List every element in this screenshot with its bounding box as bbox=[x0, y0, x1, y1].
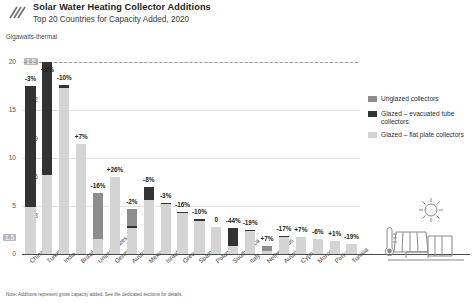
bar-morocco[interactable] bbox=[313, 239, 323, 254]
legend-label-evacuated-tube: Glazed – evacuated tube collectors bbox=[381, 110, 472, 125]
bar-segment-flat bbox=[211, 227, 221, 254]
y-axis-tick-primary: 5 bbox=[2, 202, 16, 209]
bar-portugal[interactable] bbox=[330, 241, 340, 254]
bar-segment-unglazed bbox=[93, 193, 103, 239]
bar-change-label: -19% bbox=[236, 219, 264, 226]
bar-segment-flat bbox=[127, 228, 137, 254]
legend-swatch-unglazed bbox=[368, 96, 377, 102]
sun-icon bbox=[419, 198, 443, 222]
bar-segment-evac bbox=[228, 228, 238, 246]
bar-china[interactable] bbox=[25, 86, 35, 254]
solar-collector-icon bbox=[388, 232, 464, 260]
bar-segment-flat bbox=[161, 204, 171, 254]
bar-segment-unglazed bbox=[262, 246, 272, 251]
bar-segment-flat bbox=[144, 200, 154, 254]
y-axis-tick-primary: 15 bbox=[2, 106, 16, 113]
bar-segment-flat bbox=[177, 213, 187, 254]
bar-segment-flat bbox=[330, 241, 340, 254]
bar-segment-flat bbox=[194, 221, 204, 254]
thermometer-icon bbox=[385, 228, 397, 256]
y-axis-secondary-origin-marker: 1.5 bbox=[3, 234, 16, 241]
legend-label-flat-plate: Glazed – flat plate collectors bbox=[381, 131, 472, 139]
y-axis-tick-primary: 0 bbox=[2, 250, 16, 257]
bar-tunisia[interactable] bbox=[346, 244, 356, 254]
bar-australia[interactable] bbox=[127, 209, 137, 254]
bar-segment-flat bbox=[296, 237, 306, 254]
bar-change-label: +7% bbox=[67, 133, 95, 140]
decorative-artwork bbox=[382, 196, 470, 268]
bar-change-label: -16% bbox=[84, 182, 112, 189]
bar-change-label: +7% bbox=[253, 235, 281, 242]
bar-germany[interactable] bbox=[110, 177, 120, 254]
bar-united-states[interactable] bbox=[93, 193, 103, 254]
bar-austria[interactable] bbox=[279, 236, 289, 254]
bar-change-label: +2% bbox=[33, 66, 61, 73]
legend-swatch-evacuated-tube bbox=[368, 111, 377, 117]
legend-label-unglazed: Unglazed collectors bbox=[381, 95, 472, 103]
bar-segment-evac bbox=[279, 236, 289, 237]
bar-segment-evac bbox=[25, 86, 35, 207]
bar-segment-flat bbox=[346, 244, 356, 254]
bar-segment-flat bbox=[110, 177, 120, 254]
y-axis-tick-primary: 10 bbox=[2, 154, 16, 161]
bar-change-label: -3% bbox=[152, 192, 180, 199]
bar-spain[interactable] bbox=[194, 219, 204, 254]
bar-segment-unglazed bbox=[127, 209, 137, 226]
bar-poland[interactable] bbox=[211, 227, 221, 254]
chart-legend: Unglazed collectors Glazed – evacuated t… bbox=[368, 95, 472, 146]
bar-segment-flat bbox=[313, 239, 323, 254]
bar-segment-flat bbox=[25, 207, 35, 254]
chart-footnote: Note: Additions represent gross capacity… bbox=[6, 292, 466, 298]
bar-segment-flat bbox=[59, 88, 69, 254]
bar-change-label: -10% bbox=[50, 74, 78, 81]
bar-change-label: -3% bbox=[16, 75, 44, 82]
bar-israel[interactable] bbox=[161, 203, 171, 254]
bar-segment-flat bbox=[93, 239, 103, 254]
bar-india[interactable] bbox=[59, 85, 69, 254]
bar-segment-flat bbox=[76, 144, 86, 254]
legend-item-flat-plate: Glazed – flat plate collectors bbox=[368, 131, 472, 140]
bar-south-africa[interactable] bbox=[228, 228, 238, 254]
bar-change-label: -8% bbox=[135, 176, 163, 183]
bar-change-label: +26% bbox=[101, 166, 129, 173]
legend-item-evacuated-tube: Glazed – evacuated tube collectors bbox=[368, 110, 472, 125]
bar-change-label: -16% bbox=[168, 201, 196, 208]
bar-segment-flat bbox=[42, 175, 52, 254]
bar-change-label: -2% bbox=[118, 198, 146, 205]
bar-brazil[interactable] bbox=[76, 144, 86, 254]
bar-segment-evac bbox=[245, 230, 255, 231]
bar-segment-evac bbox=[59, 85, 69, 88]
bar-greece[interactable] bbox=[177, 212, 187, 254]
bar-change-label: -10% bbox=[185, 208, 213, 215]
bar-cyprus[interactable] bbox=[296, 237, 306, 254]
bar-turkey[interactable] bbox=[42, 62, 52, 254]
bar-change-label: -19% bbox=[337, 233, 365, 240]
bar-segment-flat bbox=[279, 237, 289, 254]
bar-segment-evac bbox=[127, 226, 137, 229]
y-axis-tick-primary: 20 bbox=[2, 58, 16, 65]
legend-swatch-flat-plate bbox=[368, 132, 377, 138]
legend-item-unglazed: Unglazed collectors bbox=[368, 95, 472, 104]
